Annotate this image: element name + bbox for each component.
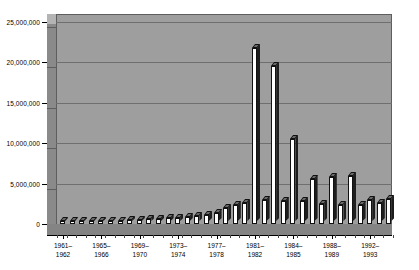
bar <box>137 220 142 224</box>
bar-front-face <box>108 221 113 224</box>
x-axis-minor-tick <box>211 235 212 238</box>
x-axis-minor-tick <box>220 235 221 238</box>
x-axis-minor-tick <box>374 235 375 238</box>
x-axis-tick-label: 1981–1982 <box>235 241 275 259</box>
y-axis-tick-label: 25,000,000 <box>6 19 40 26</box>
x-axis-minor-tick <box>134 235 135 238</box>
bar <box>204 215 209 224</box>
x-axis-tick-mark <box>370 235 371 239</box>
x-axis-tick-mark <box>217 235 218 239</box>
x-axis-tick-mark <box>332 235 333 239</box>
bar-front-face <box>70 221 75 224</box>
x-axis-minor-tick <box>76 235 77 238</box>
y-axis-tick-label: 15,000,000 <box>6 99 40 106</box>
bar-front-face <box>194 216 199 224</box>
x-axis-minor-tick <box>67 235 68 238</box>
bar-front-face <box>358 205 363 224</box>
bar <box>271 66 276 224</box>
bar-front-face <box>233 205 238 224</box>
bar-front-face <box>242 203 247 224</box>
bar <box>175 218 180 224</box>
bar-side-face <box>267 197 270 221</box>
bar-front-face <box>310 179 315 224</box>
bar <box>146 219 151 224</box>
x-axis-minor-tick <box>201 235 202 238</box>
bar <box>348 176 353 224</box>
bar <box>367 200 372 224</box>
x-axis-minor-tick <box>191 235 192 238</box>
x-axis-minor-tick <box>230 235 231 238</box>
bar <box>70 221 75 224</box>
bar <box>233 205 238 224</box>
bar-side-face <box>276 63 279 221</box>
bar-front-face <box>214 213 219 224</box>
x-axis-minor-tick <box>383 235 384 238</box>
x-axis-tick-label: 1992–1993 <box>350 241 390 259</box>
bar <box>194 216 199 224</box>
bar-front-face <box>377 203 382 224</box>
bar-side-face <box>334 174 337 221</box>
x-axis-minor-tick <box>307 235 308 238</box>
bar-front-face <box>281 201 286 224</box>
bar-front-face <box>367 200 372 224</box>
bar <box>329 177 334 224</box>
x-axis-minor-tick <box>278 235 279 238</box>
x-axis-tick-label: 1965–1966 <box>81 241 121 259</box>
x-axis: 1961–19621965–19661969–19701973–19741977… <box>47 235 392 270</box>
bar-front-face <box>329 177 334 224</box>
x-axis-minor-tick <box>163 235 164 238</box>
bar <box>310 179 315 224</box>
bar <box>300 201 305 224</box>
x-axis-tick-mark <box>293 235 294 239</box>
bar-side-face <box>295 136 298 221</box>
bar-front-face <box>127 220 132 224</box>
bar <box>98 221 103 224</box>
bar-front-face <box>271 66 276 224</box>
bar-front-face <box>204 215 209 224</box>
bar-front-face <box>175 218 180 224</box>
bar <box>262 200 267 224</box>
bar-front-face <box>89 221 94 224</box>
bar-front-face <box>386 199 391 224</box>
bar-side-face <box>257 45 260 221</box>
bar-front-face <box>290 139 295 224</box>
x-axis-minor-tick <box>259 235 260 238</box>
x-axis-tick-label: 1961–1962 <box>43 241 83 259</box>
x-axis-minor-tick <box>86 235 87 238</box>
x-axis-minor-tick <box>393 235 394 238</box>
x-axis-minor-tick <box>345 235 346 238</box>
bar <box>214 213 219 224</box>
x-axis-minor-tick <box>364 235 365 238</box>
x-axis-minor-tick <box>316 235 317 238</box>
bar <box>166 218 171 224</box>
bar <box>223 208 228 224</box>
x-axis-tick-label: 1988–1989 <box>312 241 352 259</box>
y-axis-tick-label: 20,000,000 <box>6 59 40 66</box>
bar-front-face <box>262 200 267 224</box>
x-axis-minor-tick <box>143 235 144 238</box>
bar-side-face <box>363 202 366 221</box>
x-axis-minor-tick <box>115 235 116 238</box>
bar-top-face <box>118 217 126 221</box>
bar-side-face <box>286 198 289 221</box>
x-axis-minor-tick <box>268 235 269 238</box>
bar-side-face <box>372 197 375 221</box>
x-axis-tick-mark <box>140 235 141 239</box>
x-axis-tick-mark <box>178 235 179 239</box>
x-axis-minor-tick <box>297 235 298 238</box>
x-axis-minor-tick <box>182 235 183 238</box>
bar-side-face <box>315 176 318 221</box>
bar <box>185 217 190 224</box>
bar <box>290 139 295 224</box>
x-axis-minor-tick <box>355 235 356 238</box>
bar-front-face <box>348 176 353 224</box>
plot-area <box>47 14 392 235</box>
bar-chart: 25,000,00020,000,00015,000,00010,000,000… <box>0 0 419 270</box>
x-axis-minor-tick <box>335 235 336 238</box>
x-axis-minor-tick <box>249 235 250 238</box>
bar-front-face <box>146 219 151 224</box>
bar-side-face <box>305 198 308 221</box>
bar-side-face <box>391 196 394 221</box>
bar <box>281 201 286 224</box>
bar <box>377 203 382 224</box>
